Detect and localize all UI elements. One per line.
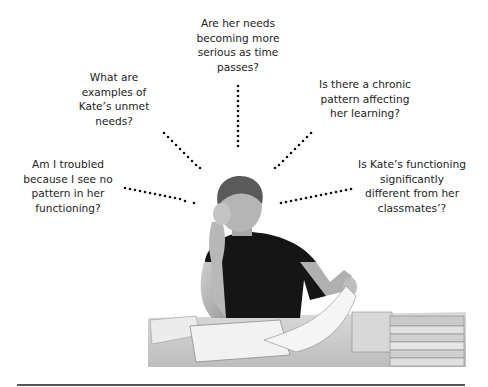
question-line: Kate’s unmet: [74, 99, 154, 114]
connector-upper-left: [163, 132, 202, 170]
question-line: passes?: [188, 60, 288, 75]
question-upper-left: What are examples of Kate’s unmet needs?: [74, 70, 154, 128]
hand-on-head: [213, 203, 231, 225]
question-line: examples of: [74, 85, 154, 100]
question-line: Is there a chronic: [310, 77, 420, 92]
question-line: What are: [74, 70, 154, 85]
question-line: pattern in her: [18, 186, 118, 201]
question-line: Are her needs: [188, 16, 288, 31]
connector-upper-right: [274, 132, 313, 170]
question-line: pattern affecting: [310, 92, 420, 107]
question-line: Am I troubled: [18, 157, 118, 172]
connector-top: [237, 85, 240, 148]
bottom-divider: [17, 384, 465, 386]
question-upper-right: Is there a chronic pattern affecting her…: [310, 77, 420, 121]
question-line: because I see no: [18, 172, 118, 187]
question-line: Is Kate’s functioning: [354, 157, 470, 172]
question-left: Am I troubled because I see no pattern i…: [18, 157, 118, 215]
question-line: becoming more: [188, 31, 288, 46]
question-line: her learning?: [310, 106, 420, 121]
teacher-photo: [148, 175, 466, 367]
question-top: Are her needs becoming more serious as t…: [188, 16, 288, 74]
question-line: needs?: [74, 114, 154, 129]
question-line: serious as time: [188, 45, 288, 60]
question-line: functioning?: [18, 201, 118, 216]
